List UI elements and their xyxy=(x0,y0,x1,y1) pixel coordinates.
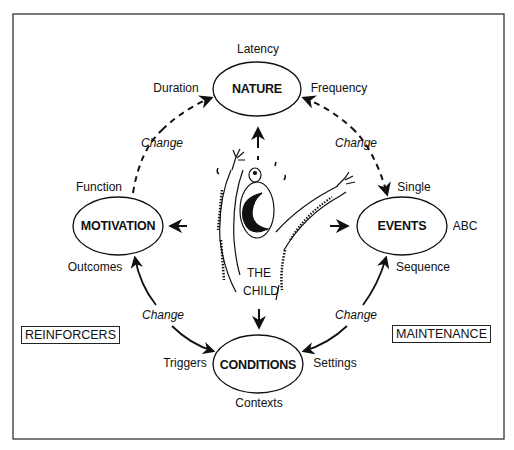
child-label-child: CHILD xyxy=(243,283,279,299)
solid-arrow-events-to-conditions-lower xyxy=(304,326,347,351)
change-label-bottom-left: Change xyxy=(142,308,184,322)
conditions-attr-settings: Settings xyxy=(313,356,356,370)
events-attr-sequence: Sequence xyxy=(396,260,450,274)
diagram-graphics xyxy=(0,0,514,450)
solid-arrow-conditions-to-motivation-upper xyxy=(135,258,156,305)
nature-attr-latency: Latency xyxy=(237,42,279,56)
nature-attr-frequency: Frequency xyxy=(311,81,368,95)
conditions-attr-contexts: Contexts xyxy=(235,396,282,410)
node-nature-label: NATURE xyxy=(232,82,282,96)
node-conditions-label: CONDITIONS xyxy=(220,358,296,372)
solid-arrow-events-to-conditions-upper xyxy=(363,258,386,305)
motivation-attr-outcomes: Outcomes xyxy=(68,260,123,274)
motivation-attr-function: Function xyxy=(76,180,122,194)
change-label-bottom-right: Change xyxy=(335,308,377,322)
conditions-attr-triggers: Triggers xyxy=(163,356,207,370)
change-label-top-right: Change xyxy=(335,136,377,150)
node-events-label: EVENTS xyxy=(378,219,427,233)
solid-arrow-conditions-to-motivation-lower xyxy=(172,326,213,351)
node-motivation-label: MOTIVATION xyxy=(81,219,156,233)
diagram-canvas: NATURE MOTIVATION EVENTS CONDITIONS Late… xyxy=(0,0,514,450)
reinforcers-box: REINFORCERS xyxy=(21,326,120,344)
events-attr-abc: ABC xyxy=(453,219,478,233)
child-figure-icon xyxy=(217,149,355,300)
events-attr-single: Single xyxy=(397,180,430,194)
maintenance-box: MAINTENANCE xyxy=(392,325,491,343)
nature-attr-duration: Duration xyxy=(153,81,198,95)
child-label-the: THE xyxy=(247,265,271,281)
change-label-top-left: Change xyxy=(141,136,183,150)
